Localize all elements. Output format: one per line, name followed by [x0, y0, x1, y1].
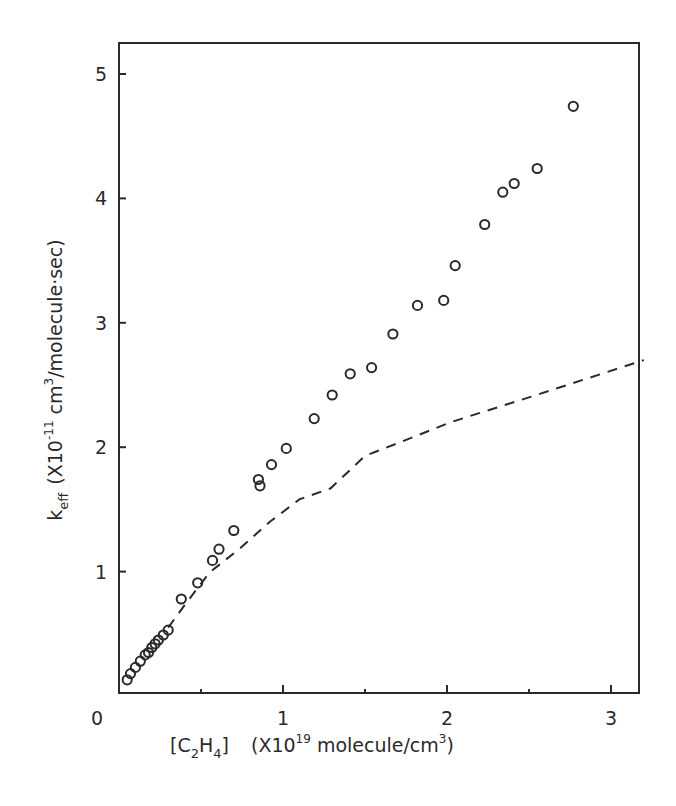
data-point — [533, 164, 542, 173]
y-axis-label: keff(X10-11 cm3/molecule·sec) — [42, 239, 71, 520]
data-point — [328, 390, 337, 399]
data-point — [267, 460, 276, 469]
data-point — [255, 481, 264, 490]
data-point — [310, 414, 319, 423]
data-point — [367, 363, 376, 372]
data-point — [229, 526, 238, 535]
plot-frame — [119, 43, 639, 693]
x-tick-label: 3 — [605, 707, 617, 729]
chart: 0123 12345 keff(X10-11 cm3/molecule·sec)… — [0, 0, 676, 806]
plot-canvas: 0123 12345 keff(X10-11 cm3/molecule·sec)… — [0, 0, 676, 806]
x-axis-label: [C2H4](X1019 molecule/cm3) — [170, 732, 454, 761]
data-point — [510, 179, 519, 188]
data-point — [451, 261, 460, 270]
data-point — [131, 663, 140, 672]
y-tick-label: 5 — [95, 63, 107, 85]
data-point — [498, 188, 507, 197]
model-curve-path — [168, 360, 644, 627]
data-point — [208, 556, 217, 565]
y-tick-label: 4 — [95, 187, 107, 209]
data-point — [480, 220, 489, 229]
data-point — [282, 444, 291, 453]
data-point — [136, 657, 145, 666]
data-point — [388, 329, 397, 338]
x-tick-label: 1 — [277, 707, 289, 729]
y-tick-label: 3 — [95, 312, 107, 334]
data-point — [569, 102, 578, 111]
data-point — [346, 369, 355, 378]
data-point — [177, 594, 186, 603]
data-point — [439, 296, 448, 305]
x-tick-label: 0 — [91, 707, 103, 729]
y-tick-label: 1 — [95, 561, 107, 583]
data-point — [214, 545, 223, 554]
y-axis-ticks: 12345 — [95, 63, 126, 583]
data-point — [254, 475, 263, 484]
x-tick-label: 2 — [441, 707, 453, 729]
svg-text:[C2H4](X1019 molecule/cm3): [C2H4](X1019 molecule/cm3) — [170, 732, 454, 761]
data-point — [413, 301, 422, 310]
x-axis-ticks: 0123 — [91, 685, 617, 729]
y-tick-label: 2 — [95, 436, 107, 458]
svg-text:keff(X10-11 cm3/molecule·sec): keff(X10-11 cm3/molecule·sec) — [42, 239, 71, 520]
dashed-model-curve — [168, 360, 644, 627]
